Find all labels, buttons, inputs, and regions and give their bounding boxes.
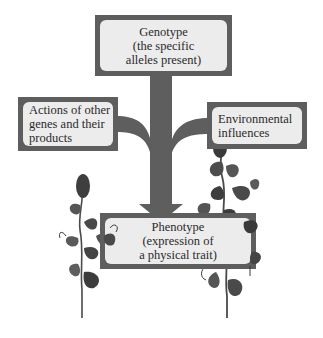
genotype-box: Genotype (the specific alleles present) <box>95 15 232 76</box>
other-genes-line-3: products <box>29 131 110 145</box>
phenotype-desc-line-2: a physical trait) <box>139 248 217 262</box>
genotype-desc-line-2: alleles present) <box>126 53 201 67</box>
other-genes-box: Actions of other genes and their product… <box>18 97 118 151</box>
trunk-connector <box>150 74 172 206</box>
environment-line-1: Environmental <box>218 112 292 126</box>
environment-box: Environmental influences <box>207 102 307 149</box>
other-genes-line-1: Actions of other <box>29 103 110 117</box>
genotype-phenotype-diagram: Genotype (the specific alleles present) … <box>0 0 323 338</box>
environment-line-2: influences <box>218 126 292 140</box>
genotype-desc-line-1: (the specific <box>126 39 201 53</box>
phenotype-title: Phenotype <box>139 220 217 234</box>
genotype-title: Genotype <box>126 25 201 39</box>
right-branch-connector <box>170 118 209 160</box>
phenotype-box: Phenotype (expression of a physical trai… <box>100 213 256 269</box>
other-genes-line-2: genes and their <box>29 117 110 131</box>
left-branch-connector <box>116 116 152 160</box>
phenotype-desc-line-1: (expression of <box>139 234 217 248</box>
